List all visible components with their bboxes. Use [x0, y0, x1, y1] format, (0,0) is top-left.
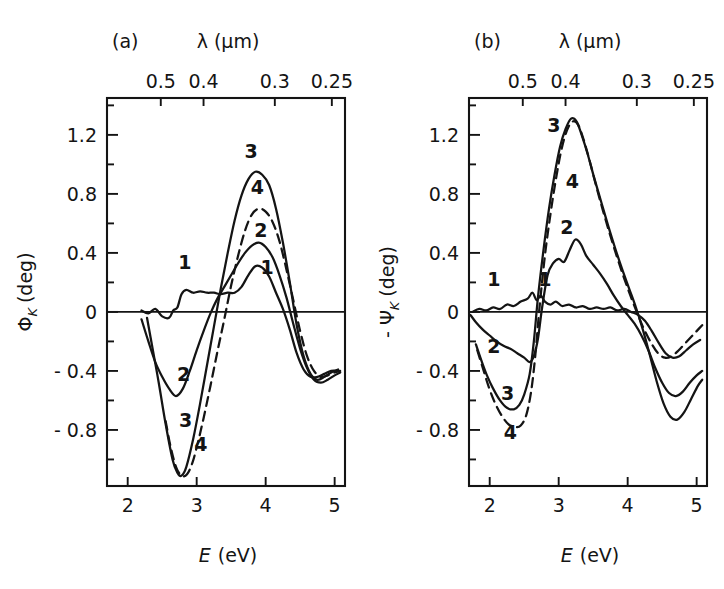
bottom-axis-title: E(eV)	[561, 544, 620, 566]
x-tick-label: 5	[691, 494, 703, 516]
y-tick-label: 0.8	[67, 183, 97, 205]
y-tick-label: 0.4	[429, 242, 459, 264]
y-axis-title: ΦK(deg)	[14, 252, 40, 331]
y-tick-label: 0.4	[67, 242, 97, 264]
curve-3	[147, 172, 338, 476]
curve-label-2: 2	[177, 363, 190, 385]
curve-label-3: 3	[245, 140, 258, 162]
curve-label-3: 3	[547, 114, 560, 136]
curves-group	[470, 118, 702, 427]
curve-label-3: 3	[179, 409, 192, 431]
top-tick-label: 0.4	[550, 70, 580, 92]
x-tick-label: 2	[122, 494, 134, 516]
top-axis-title: λ (μm)	[559, 30, 622, 52]
curve-label-2: 2	[560, 216, 573, 238]
x-tick-label: 2	[484, 494, 496, 516]
x-tick-label: 5	[329, 494, 341, 516]
y-tick-label: 0	[447, 301, 459, 323]
curve-label-3: 3	[501, 382, 514, 404]
y-tick-label: 1.2	[67, 124, 97, 146]
top-tick-label: 0.5	[508, 70, 538, 92]
curve-4	[166, 209, 341, 477]
curve-label-4: 4	[251, 176, 264, 198]
curve-label-4: 4	[566, 170, 579, 192]
top-tick-label: 0.5	[146, 70, 176, 92]
x-tick-label: 3	[191, 494, 203, 516]
curve-label-2: 2	[254, 219, 267, 241]
curve-2	[470, 239, 702, 396]
top-tick-label: 0.4	[188, 70, 218, 92]
x-tick-label: 3	[553, 494, 565, 516]
x-tick-label: 4	[260, 494, 272, 516]
top-tick-label: 0.25	[311, 70, 353, 92]
y-tick-label: 0.8	[429, 183, 459, 205]
top-axis-title: λ (μm)	[197, 30, 260, 52]
curves-group	[141, 172, 340, 477]
top-tick-label: 0.3	[260, 70, 290, 92]
y-axis-title: - ΨK(deg)	[376, 246, 402, 338]
panel-b: (b)λ (μm)0.50.40.30.251.20.80.40- 0.4- 0…	[362, 0, 724, 589]
figure-container: (a)λ (μm)0.50.40.30.251.20.80.40- 0.4- 0…	[0, 0, 724, 589]
y-tick-label: 0	[85, 301, 97, 323]
panel-a: (a)λ (μm)0.50.40.30.251.20.80.40- 0.4- 0…	[0, 0, 362, 589]
kerr-rotation-panel-svg: (a)λ (μm)0.50.40.30.251.20.80.40- 0.4- 0…	[0, 0, 362, 589]
kerr-ellipticity-panel-tag: (b)	[474, 30, 501, 52]
y-tick-label: - 0.4	[416, 360, 459, 382]
curve-label-4: 4	[194, 433, 207, 455]
bottom-axis-title: E(eV)	[199, 544, 258, 566]
curve-3	[476, 118, 702, 420]
curve-label-4: 4	[504, 421, 517, 443]
curve-label-1: 1	[260, 256, 273, 278]
curve-4	[477, 121, 702, 427]
kerr-rotation-panel-tag: (a)	[112, 30, 138, 52]
x-tick-label: 4	[622, 494, 634, 516]
curve-label-1: 1	[487, 268, 500, 290]
y-tick-label: - 0.4	[54, 360, 97, 382]
top-tick-label: 0.25	[673, 70, 715, 92]
y-tick-label: - 0.8	[416, 419, 459, 441]
y-tick-label: 1.2	[429, 124, 459, 146]
curve-label-2: 2	[487, 335, 500, 357]
curve-label-1: 1	[178, 251, 191, 273]
curve-label-1: 1	[538, 268, 551, 290]
kerr-ellipticity-panel-svg: (b)λ (μm)0.50.40.30.251.20.80.40- 0.4- 0…	[362, 0, 724, 589]
y-tick-label: - 0.8	[54, 419, 97, 441]
top-tick-label: 0.3	[622, 70, 652, 92]
